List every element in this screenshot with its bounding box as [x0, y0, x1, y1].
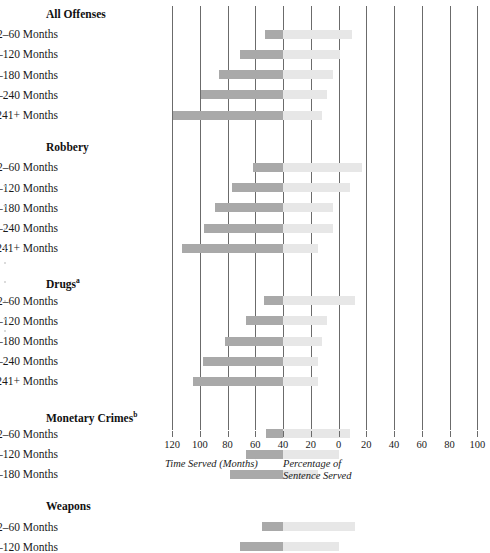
row-label: 12–60 Months — [0, 162, 58, 173]
scan-artifact — [4, 281, 6, 283]
row-label: 121–180 Months — [0, 469, 58, 480]
gridline — [366, 6, 367, 430]
row-label: 121–180 Months — [0, 203, 58, 214]
scan-artifact — [4, 318, 6, 320]
bar-time-served — [182, 244, 283, 253]
row-label: 241+ Months — [0, 243, 58, 254]
bar-time-served — [253, 163, 284, 172]
bar-time-served — [225, 337, 283, 346]
scan-artifact — [4, 205, 6, 207]
bar-time-served — [264, 296, 283, 305]
axis-tick — [477, 431, 478, 437]
group-heading-monetary-crimes: Monetary Crimesb — [46, 409, 137, 424]
row-label: 180–240 Months — [0, 356, 58, 367]
row-label: 241+ Months — [0, 110, 58, 121]
axis-tick-label: 100 — [460, 440, 490, 450]
row-label: 241+ Months — [0, 376, 58, 387]
group-heading-weapons: Weapons — [46, 501, 91, 512]
bar-percentage-served — [283, 357, 318, 366]
bar-percentage-served — [283, 203, 333, 212]
scan-artifact — [4, 185, 6, 187]
bar-time-served — [204, 224, 283, 233]
bar-percentage-served — [283, 111, 322, 120]
group-heading-robbery: Robbery — [46, 142, 89, 153]
axis-tick — [283, 431, 284, 437]
row-label: 61–120 Months — [0, 183, 58, 194]
row-label: 180–240 Months — [0, 90, 58, 101]
row-label: 121–180 Months — [0, 336, 58, 347]
row-label: 121–180 Months — [0, 70, 58, 81]
right-axis-caption: Percentage of Sentence Served — [283, 458, 352, 481]
axis-tick — [366, 431, 367, 437]
footnote-marker: a — [76, 276, 80, 285]
bar-percentage-served — [283, 316, 327, 325]
bar-percentage-served — [283, 163, 362, 172]
bar-time-served — [201, 90, 283, 99]
scan-artifact — [4, 262, 6, 264]
bar-time-served — [219, 70, 283, 79]
bar-time-served — [230, 470, 283, 479]
row-label: 12–60 Months — [0, 29, 58, 40]
scan-artifact — [4, 228, 6, 230]
bar-time-served — [232, 183, 283, 192]
bar-time-served — [203, 357, 284, 366]
bar-percentage-served — [283, 542, 339, 551]
axis-tick — [394, 431, 395, 437]
bar-percentage-served — [283, 244, 318, 253]
bar-time-served — [266, 429, 283, 438]
plot-area — [172, 6, 383, 430]
axis-tick — [200, 431, 201, 437]
bar-percentage-served — [283, 377, 318, 386]
axis-tick — [339, 431, 340, 437]
gridline — [339, 6, 340, 430]
axis-tick — [311, 431, 312, 437]
bar-time-served — [246, 316, 284, 325]
bar-time-served — [173, 111, 283, 120]
row-label: 61–120 Months — [0, 316, 58, 327]
row-label: 180–240 Months — [0, 223, 58, 234]
row-label: 61–120 Months — [0, 542, 58, 553]
bar-percentage-served — [283, 429, 350, 438]
gridline — [422, 6, 423, 430]
gridline — [477, 6, 478, 430]
footnote-marker: b — [133, 410, 137, 419]
bar-percentage-served — [283, 224, 333, 233]
axis-tick — [255, 431, 256, 437]
group-heading-all-offenses: All Offenses — [46, 9, 106, 20]
scan-artifact — [4, 248, 6, 250]
row-label: 12–60 Months — [0, 296, 58, 307]
axis-tick — [422, 431, 423, 437]
bar-percentage-served — [283, 296, 355, 305]
bar-time-served — [262, 522, 283, 531]
scan-artifact — [4, 300, 6, 302]
group-heading-drugs: Drugsa — [46, 275, 80, 290]
axis-tick — [172, 431, 173, 437]
row-label: 61–120 Months — [0, 49, 58, 60]
bar-percentage-served — [283, 70, 333, 79]
axis-tick — [228, 431, 229, 437]
bar-time-served — [193, 377, 283, 386]
bar-time-served — [240, 542, 283, 551]
bar-percentage-served — [283, 90, 327, 99]
bar-percentage-served — [283, 183, 350, 192]
row-label: 12–60 Months — [0, 429, 58, 440]
axis-tick — [450, 431, 451, 437]
gridline — [394, 6, 395, 430]
scan-artifact — [4, 330, 6, 332]
bar-percentage-served — [283, 30, 352, 39]
gridline — [172, 6, 173, 430]
bar-percentage-served — [283, 50, 340, 59]
bar-percentage-served — [283, 337, 322, 346]
bar-time-served — [265, 30, 283, 39]
row-label: 61–120 Months — [0, 449, 58, 460]
bar-percentage-served — [283, 522, 355, 531]
bar-time-served — [240, 50, 283, 59]
gridline — [450, 6, 451, 430]
row-label: 12–60 Months — [0, 522, 58, 533]
gridline — [200, 6, 201, 430]
bar-time-served — [215, 203, 283, 212]
left-axis-caption: Time Served (Months) — [165, 458, 258, 470]
